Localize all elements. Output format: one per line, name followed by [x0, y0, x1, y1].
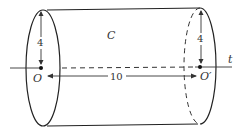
right-radius-label: 4: [197, 33, 203, 44]
right-radius-arrowhead-bottom: [199, 59, 204, 64]
region-label: C: [107, 29, 116, 42]
right-radius-arrowhead-top: [199, 10, 204, 15]
right-center-point: [198, 65, 202, 69]
left-radius-label: 4: [37, 37, 43, 48]
cylinder-bottom-edge: [47, 124, 198, 126]
right-end-visible-arc: [200, 8, 216, 124]
axis-hidden-segment: [62, 67, 195, 68]
left-center-label: O: [33, 72, 42, 85]
length-arrowhead-right: [191, 74, 197, 79]
length-arrowhead-left: [47, 74, 53, 79]
right-center-label: O′: [200, 70, 212, 83]
cylinder-top-edge: [47, 8, 200, 10]
left-radius-arrowhead-bottom: [39, 60, 44, 65]
axis-label: t: [228, 53, 233, 66]
left-center-point: [39, 66, 43, 70]
length-label: 10: [110, 71, 123, 82]
cylinder-diagram: t O O′ 4 4 10 C: [0, 0, 245, 137]
right-end-hidden-arc: [184, 8, 200, 124]
